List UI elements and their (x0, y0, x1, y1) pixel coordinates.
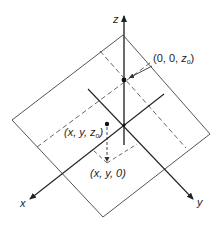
label-point-x-y-z0: (x, y, zo) (64, 127, 103, 139)
label-point-0-0-z0: (0, 0, zo) (153, 53, 194, 65)
x-axis-label: x (20, 198, 26, 209)
y-axis-label: y (197, 197, 203, 208)
diagram-canvas: z x y (0, 0, zo) (x, y, zo) (x, y, 0) (0, 0, 223, 231)
point-0-0-z0 (122, 78, 127, 83)
label-point-x-y-0: (x, y, 0) (90, 168, 126, 179)
y-axis (88, 89, 193, 199)
projection-dashed-y (107, 144, 137, 163)
point-x-y-z0 (105, 122, 109, 126)
projection-dashed-x (93, 150, 107, 163)
origin (122, 123, 125, 126)
label-pointer-arrow (129, 66, 152, 78)
x-axis (30, 94, 164, 199)
z-axis-label: z (113, 14, 119, 25)
diagram-svg (0, 0, 223, 231)
